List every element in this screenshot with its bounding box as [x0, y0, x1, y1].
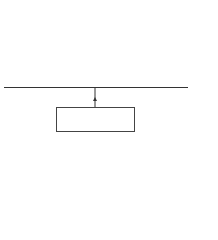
arrow-head-icon [93, 97, 97, 101]
mean-box [56, 107, 135, 132]
